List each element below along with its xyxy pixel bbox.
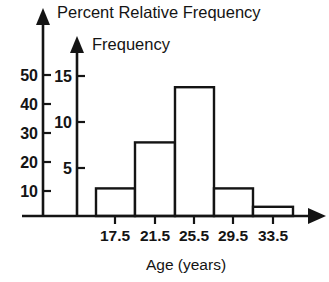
- bars-group: [96, 87, 293, 216]
- x-tick-label-25.5: 25.5: [179, 227, 210, 244]
- bar-21.5: [135, 142, 175, 216]
- percent-tick-label-30: 30: [20, 125, 38, 142]
- bar-29.5: [214, 188, 253, 216]
- frequency-tick-label-10: 10: [54, 114, 72, 131]
- percent-axis-arrow-icon: [36, 8, 50, 25]
- x-tick-label-33.5: 33.5: [258, 227, 289, 244]
- x-axis-title: Age (years): [146, 256, 226, 273]
- bar-33.5: [253, 207, 293, 216]
- chart-canvas: 10 20 30 40 50 Percent Relative Frequenc…: [0, 0, 329, 282]
- percent-tick-label-40: 40: [20, 96, 38, 113]
- frequency-tick-label-15: 15: [54, 68, 72, 85]
- bar-25.5: [175, 87, 214, 216]
- percent-tick-label-10: 10: [20, 183, 38, 200]
- percent-axis-title: Percent Relative Frequency: [57, 3, 261, 21]
- percent-tick-label-20: 20: [20, 154, 38, 171]
- x-tick-label-29.5: 29.5: [218, 227, 249, 244]
- frequency-tick-label-5: 5: [63, 160, 72, 177]
- x-axis-arrow-icon: [308, 208, 326, 224]
- x-tick-label-21.5: 21.5: [140, 227, 171, 244]
- percent-tick-label-50: 50: [20, 67, 38, 84]
- bar-17.5: [96, 188, 135, 216]
- x-axis: 17.5 21.5 25.5 29.5 33.5 Age (years): [22, 208, 326, 273]
- frequency-axis-arrow-icon: [70, 36, 84, 53]
- histogram-chart: 10 20 30 40 50 Percent Relative Frequenc…: [0, 0, 329, 282]
- frequency-axis-title: Frequency: [92, 35, 171, 53]
- x-tick-label-17.5: 17.5: [100, 227, 131, 244]
